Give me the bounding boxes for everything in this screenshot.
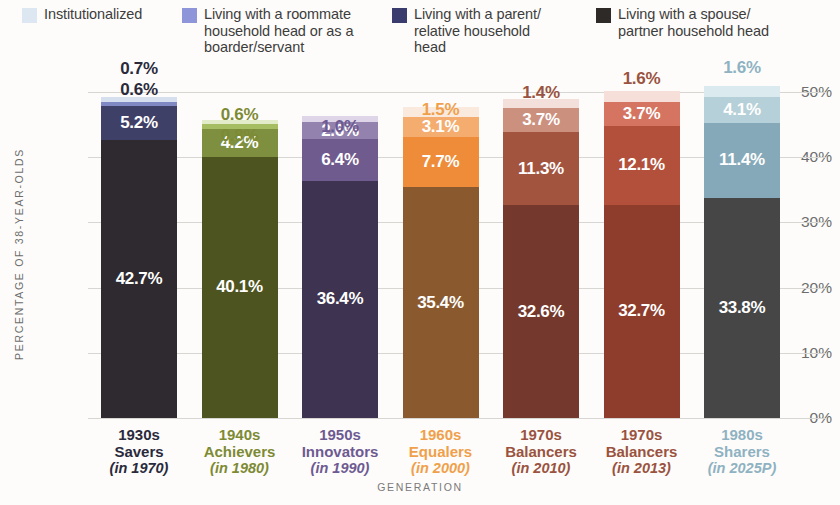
legend-item-spouse: Living with a spouse/ partner household …	[596, 6, 826, 39]
legend-label-spouse: Living with a spouse/ partner household …	[618, 6, 769, 39]
segment-value-label: 4.1%	[723, 100, 761, 120]
bar-segment-roommate[interactable]: 3.7%	[604, 102, 680, 126]
segment-value-label: 32.6%	[518, 302, 565, 322]
x-category-label: 1980sSharers(in 2025P)	[682, 426, 802, 477]
bar-column[interactable]: 4.1%11.4%33.8%1.6%	[704, 86, 780, 418]
bar-segment-institutionalized[interactable]	[604, 91, 680, 101]
bar-segment-parent[interactable]: 12.1%	[604, 126, 680, 205]
bar-segment-parent[interactable]: 7.7%	[403, 137, 479, 187]
bar-column[interactable]: 3.7%12.1%32.7%1.6%	[604, 91, 680, 418]
segment-value-label: 11.3%	[518, 159, 564, 179]
legend-swatch-parent	[392, 8, 407, 23]
bar-segment-institutionalized[interactable]	[704, 86, 780, 96]
bar-segment-roommate[interactable]: 4.1%	[704, 97, 780, 124]
bar-segment-parent[interactable]: 11.3%	[503, 132, 579, 206]
bar-column[interactable]: 3.7%11.3%32.6%1.4%	[503, 99, 579, 418]
bar-segment-parent[interactable]: 6.4%	[302, 139, 378, 181]
bar-segment-spouse[interactable]: 42.7%	[101, 140, 177, 418]
bar-segment-spouse[interactable]: 32.6%	[503, 205, 579, 418]
segment-value-label: 42.7%	[116, 269, 163, 289]
bar-column[interactable]: 2.6%6.4%36.4%1.0%	[302, 116, 378, 418]
bar-segment-spouse[interactable]: 33.8%	[704, 198, 780, 418]
bar-column[interactable]: 3.1%7.7%35.4%1.5%	[403, 107, 479, 418]
segment-value-label: 33.8%	[719, 298, 766, 318]
segment-value-label: 3.7%	[522, 110, 560, 130]
bar-segment-parent[interactable]: 11.4%	[704, 123, 780, 197]
chart-legend: Institutionalized Living with a roommate…	[0, 0, 840, 62]
segment-value-label-outside: 0.7%	[79, 59, 199, 79]
segment-value-label: 5.2%	[120, 113, 158, 133]
segment-value-label: 35.4%	[417, 293, 464, 313]
legend-label-parent: Living with a parent/ relative household…	[414, 6, 562, 56]
segment-value-label: 40.1%	[216, 277, 263, 297]
y-axis-title: PERCENTAGE OF 38-YEAR-OLDS	[13, 104, 25, 404]
x-category-year: (in 2025P)	[682, 460, 802, 477]
legend-swatch-spouse	[596, 8, 611, 23]
x-category-name: Sharers	[682, 443, 802, 460]
y-axis: PERCENTAGE OF 38-YEAR-OLDS	[0, 0, 88, 505]
gridline	[88, 418, 826, 419]
segment-value-label: 11.4%	[719, 150, 765, 170]
segment-value-label-outside: 0.6%	[79, 80, 199, 100]
segment-value-label: 32.7%	[618, 301, 665, 321]
bar-column[interactable]: 4.2%40.1%0.8%0.6%	[202, 120, 278, 418]
bar-segment-spouse[interactable]: 40.1%	[202, 157, 278, 418]
segment-value-label: 7.7%	[422, 152, 460, 172]
segment-value-label-outside: 1.6%	[682, 58, 802, 78]
bar-column[interactable]: 5.2%42.7%0.6%0.7%	[101, 97, 177, 418]
bar-segment-roommate[interactable]: 3.7%	[503, 108, 579, 132]
legend-label-roommate: Living with a roommate household head or…	[204, 6, 353, 56]
bar-segment-parent[interactable]: 5.2%	[101, 106, 177, 140]
bar-segment-spouse[interactable]: 36.4%	[302, 181, 378, 418]
bar-segment-spouse[interactable]: 32.7%	[604, 205, 680, 418]
x-axis-title: GENERATION	[0, 481, 840, 493]
segment-value-label: 36.4%	[317, 289, 364, 309]
chart-plot-area: 5.2%42.7%0.6%0.7%4.2%40.1%0.8%0.6%2.6%6.…	[88, 92, 826, 418]
legend-swatch-roommate	[182, 8, 197, 23]
segment-value-label: 3.7%	[623, 104, 661, 124]
segment-value-label: 6.4%	[321, 150, 359, 170]
bar-segment-spouse[interactable]: 35.4%	[403, 187, 479, 418]
legend-item-parent: Living with a parent/ relative household…	[392, 6, 562, 56]
segment-value-label: 12.1%	[618, 155, 665, 175]
legend-item-roommate: Living with a roommate household head or…	[182, 6, 367, 56]
x-category-decade: 1980s	[682, 426, 802, 443]
